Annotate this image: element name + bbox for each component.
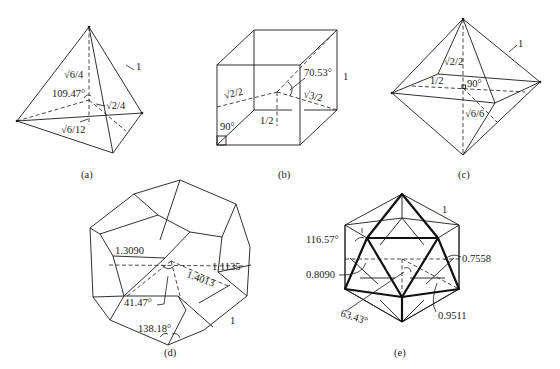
- label-angle: 70.53°: [304, 67, 332, 78]
- panel-b-cube: 70.53° 1 √2/2 √3/2 90° 1/2 (b): [217, 30, 348, 181]
- label-angle: 41.47°: [124, 297, 152, 308]
- dodeca-edge: [222, 204, 236, 237]
- tetra-right-edges: [89, 27, 142, 153]
- label-edge: 1: [230, 315, 235, 326]
- label-face-diag: √2/2: [223, 86, 244, 101]
- panel-a-tetrahedron: 1 √6/4 109.47° √2/4 √6/12 (a): [16, 26, 144, 181]
- icosa-leader-09511: [433, 283, 437, 312]
- label-edge: 1: [442, 204, 447, 215]
- tetra-vertex: [141, 112, 144, 115]
- label-r2: 1.1135: [212, 261, 241, 272]
- octa-vertex: [391, 92, 394, 95]
- dodeca-left-lower: [93, 258, 165, 297]
- label-r1: 1.3090: [115, 245, 144, 256]
- icosa-back-edge: [402, 218, 424, 245]
- dodeca-face-upper-left: [100, 215, 190, 258]
- tetra-arrow-2: [80, 119, 88, 122]
- label-edge: 1: [518, 38, 523, 49]
- label-right-angle: 90°: [467, 78, 482, 89]
- octa-vertex: [539, 81, 542, 84]
- label-dihedral: 138.18°: [138, 323, 171, 334]
- tetra-edge-leader: [126, 65, 134, 70]
- octa-edge-leader: [509, 45, 517, 52]
- tetra-hidden-edge: [17, 100, 89, 121]
- label-r1: 0.8090: [306, 269, 335, 280]
- icosa-back-edge: [426, 258, 454, 284]
- label-dihedral: 116.57°: [306, 234, 339, 245]
- dodeca-dash-4: [171, 261, 180, 296]
- dodeca-edge: [90, 228, 100, 234]
- icosa-edge: [438, 225, 459, 238]
- caption-a: (a): [81, 169, 93, 181]
- dodeca-edge: [160, 180, 180, 240]
- dodeca-edge: [113, 256, 124, 296]
- label-right-angle: 90°: [220, 121, 235, 132]
- icosa-angle-arc: [404, 268, 411, 273]
- dodeca-edge: [199, 285, 230, 303]
- tetra-base-edge: [17, 113, 142, 121]
- icosa-back-edge: [350, 258, 378, 284]
- octa-vertex: [462, 18, 465, 21]
- label-height: √6/4: [64, 69, 84, 80]
- panel-e-icosahedron: 1 116.57° 0.8090 0.7558 63.43° 0.9511 (e…: [306, 194, 491, 359]
- tetra-vertex: [88, 26, 91, 29]
- icosa-edge: [345, 225, 367, 238]
- label-angle: 109.47°: [52, 88, 85, 99]
- dodeca-edge: [110, 296, 124, 320]
- tetra-vertex: [16, 120, 19, 123]
- label-half-edge: 1/2: [260, 115, 273, 126]
- icosa-dihedral-arrow: [355, 237, 364, 241]
- dodeca-edge: [218, 272, 247, 296]
- label-half-edge: 1/2: [430, 75, 443, 86]
- dodeca-edge: [134, 194, 158, 215]
- cube-angle-leader: [290, 78, 305, 90]
- octa-equator-front: [392, 82, 540, 103]
- dodeca-edge: [178, 296, 186, 310]
- dodeca-dash-2: [126, 261, 171, 297]
- caption-c: (c): [458, 169, 470, 181]
- octa-back-equator: [438, 74, 540, 82]
- caption-d: (d): [164, 347, 177, 359]
- label-edge: 1: [136, 61, 141, 72]
- label-body-diag: √3/2: [303, 88, 324, 103]
- icosa-back-edge: [380, 218, 402, 245]
- label-center-face: √6/12: [61, 124, 85, 135]
- panel-d-dodecahedron: 1.3090 1.1135 1.4013 41.47° 138.18° 1 (d…: [90, 180, 251, 359]
- icosa-bold-top-triangle: [367, 194, 438, 238]
- label-r2: 0.7558: [462, 253, 491, 264]
- label-r3: 0.9511: [438, 310, 467, 321]
- polyhedra-figure: 1 √6/4 109.47° √2/4 √6/12 (a) 70.53° 1 √…: [0, 0, 560, 369]
- cube-body-diag-2: [277, 30, 337, 92]
- caption-e: (e): [394, 347, 406, 359]
- label-angle: 63.43°: [339, 307, 369, 326]
- caption-b: (b): [278, 169, 291, 181]
- panel-c-octahedron: 1 √2/2 1/2 90° √6/6 (c): [391, 18, 542, 181]
- label-vertex-radius: √2/2: [444, 56, 463, 67]
- octa-right-angle-mark: [462, 85, 466, 89]
- label-edge: 1: [343, 71, 348, 82]
- dodeca-angle-leader: [157, 276, 168, 305]
- icosa-upper-back: [345, 218, 459, 225]
- label-face-radius: √6/6: [465, 108, 484, 119]
- label-center-edge: √2/4: [106, 100, 126, 111]
- icosa-bold-middle-triangle: [367, 238, 438, 297]
